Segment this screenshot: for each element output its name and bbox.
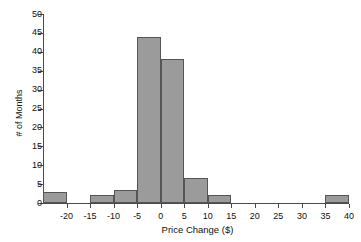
x-tick-mark <box>67 204 68 208</box>
x-tick-mark <box>325 204 326 208</box>
x-tick-mark <box>302 204 303 208</box>
y-tick-label: 35 <box>2 66 42 75</box>
histogram-bar <box>325 195 349 203</box>
x-axis-line <box>43 203 349 204</box>
x-tick-mark <box>114 204 115 208</box>
histogram-bar <box>137 37 161 203</box>
histogram-bar <box>184 178 208 203</box>
x-tick-mark <box>349 204 350 208</box>
plot-area: 05101520253035404550 -20-15-10-505101520… <box>43 14 349 203</box>
x-tick-mark <box>208 204 209 208</box>
y-tick-label: 10 <box>2 161 42 170</box>
y-tick-label: 30 <box>2 85 42 94</box>
x-tick-mark <box>255 204 256 208</box>
y-tick-label: 25 <box>2 104 42 113</box>
y-tick-label: 50 <box>2 10 42 19</box>
y-tick-label: 40 <box>2 47 42 56</box>
x-axis-title: Price Change ($) <box>43 224 352 235</box>
histogram-bar <box>114 190 138 203</box>
y-tick-label: 45 <box>2 28 42 37</box>
histogram-bar <box>90 195 114 203</box>
y-axis-line <box>43 14 44 204</box>
x-tick-mark <box>137 204 138 208</box>
histogram-bar <box>161 59 185 203</box>
x-tick-mark <box>231 204 232 208</box>
x-tick-mark <box>161 204 162 208</box>
x-tick-mark <box>90 204 91 208</box>
histogram-bar <box>43 192 67 203</box>
x-tick-label: 40 <box>329 212 361 221</box>
y-tick-label: 0 <box>2 199 42 208</box>
x-tick-mark <box>184 204 185 208</box>
y-tick-label: 5 <box>2 180 42 189</box>
y-tick-label: 20 <box>2 123 42 132</box>
y-tick-label: 15 <box>2 142 42 151</box>
histogram-bar <box>208 195 232 203</box>
histogram-chart: # of Months 05101520253035404550 -20-15-… <box>0 0 361 242</box>
x-tick-mark <box>278 204 279 208</box>
